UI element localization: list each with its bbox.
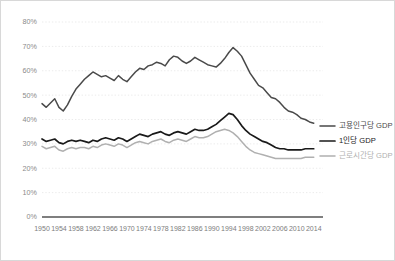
x-axis-tick-label: 1998 xyxy=(238,225,254,232)
x-axis-tick-label: 2010 xyxy=(289,225,305,232)
x-axis-tick-label: 1958 xyxy=(68,225,84,232)
y-axis-tick-label: 50% xyxy=(23,91,38,100)
x-axis-tick-label: 1974 xyxy=(136,225,152,232)
y-axis-tick-label: 40% xyxy=(23,115,38,124)
y-axis-tick-label: 10% xyxy=(23,188,38,197)
gridlines-group xyxy=(42,22,323,193)
x-axis-tick-label: 1954 xyxy=(51,225,67,232)
x-axis-tick-label: 1970 xyxy=(119,225,135,232)
x-axis-tick-label: 1950 xyxy=(34,225,50,232)
y-axis-tick-labels: 0%10%20%30%40%50%60%70%80% xyxy=(23,17,38,221)
x-axis-tick-label: 1994 xyxy=(221,225,237,232)
series-line-0 xyxy=(42,48,314,124)
y-axis-tick-label: 30% xyxy=(23,139,38,148)
x-axis-tick-labels: 1950195419581962196619701974197819821986… xyxy=(34,225,321,232)
chart-container: 0%10%20%30%40%50%60%70%80% 1950195419581… xyxy=(0,0,395,261)
legend-label-2: 근로시간당 GDP xyxy=(339,150,393,160)
y-axis-tick-label: 60% xyxy=(23,66,38,75)
y-axis-tick-label: 0% xyxy=(27,212,38,221)
x-axis-tick-label: 2006 xyxy=(272,225,288,232)
chart-legend: 고용인구당 GDP1인당 GDP근로시간당 GDP xyxy=(320,120,393,160)
series-line-1 xyxy=(42,113,314,150)
x-axis-tick-label: 1986 xyxy=(187,225,203,232)
x-axis-tick-label: 1990 xyxy=(204,225,220,232)
legend-label-1: 1인당 GDP xyxy=(339,135,376,145)
x-axis-tick-label: 1962 xyxy=(85,225,101,232)
x-axis-tick-label: 1982 xyxy=(170,225,186,232)
data-series-group xyxy=(42,48,314,159)
legend-label-0: 고용인구당 GDP xyxy=(339,120,393,130)
x-axis-tick-label: 1966 xyxy=(102,225,118,232)
y-axis-tick-label: 80% xyxy=(23,17,38,26)
x-axis-tick-label: 1978 xyxy=(153,225,169,232)
line-chart: 0%10%20%30%40%50%60%70%80% 1950195419581… xyxy=(1,1,395,261)
y-axis-tick-label: 20% xyxy=(23,164,38,173)
x-axis-tick-label: 2002 xyxy=(255,225,271,232)
x-axis-tick-label: 2014 xyxy=(306,225,322,232)
y-axis-tick-label: 70% xyxy=(23,42,38,51)
